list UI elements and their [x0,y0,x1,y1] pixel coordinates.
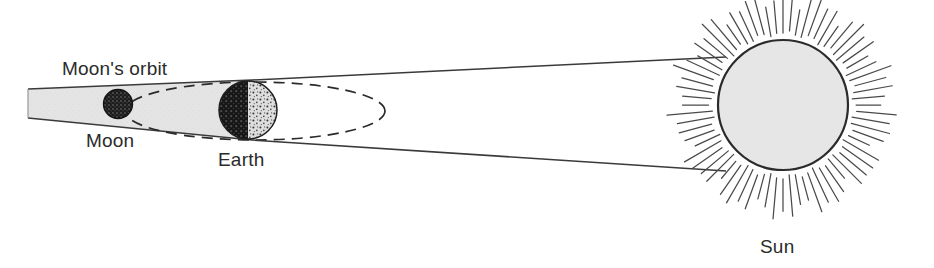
sun-ray [753,0,764,35]
label-sun: Sun [760,236,794,258]
sun-ray [843,42,873,63]
diagram-canvas [0,0,934,268]
sun-ray [843,147,873,168]
sun-ray [852,96,884,99]
sun-ray [836,37,864,60]
sun-ray [765,174,771,207]
sun-ray [831,22,853,48]
sun-ray [667,111,712,115]
sun-ray [849,136,870,146]
sun-ray [730,13,748,44]
sun-ray [819,168,838,201]
sun-ray [773,178,777,219]
sun-ray [826,166,844,192]
sun-ray [774,1,777,33]
sun-ray [758,174,765,198]
sun-ray [685,141,721,162]
sun-ray [677,117,714,123]
sun-ray [745,175,757,209]
sun-ray [687,60,719,75]
sun-ray [812,168,828,202]
sun-ray [855,77,886,85]
sun-ray [802,177,808,200]
sun-ray [795,175,800,205]
sun-ray [766,7,771,36]
sun-ray [828,159,844,178]
sun-ray [683,96,712,99]
sun-ray [789,175,793,216]
upper-tangent-ray [252,57,726,80]
sun-ray [808,173,822,212]
sun-ray [818,11,837,44]
sun-ray [745,2,757,36]
sun-ray [843,140,878,160]
sun-ray [682,78,713,86]
sun-ray [738,170,753,202]
sun-ray [852,117,889,124]
sun-ray [693,148,722,169]
label-moons-orbit: Moon's orbit [62,58,167,80]
sun-ray [704,39,727,59]
moon-body [104,90,133,119]
sun-ray [854,86,892,93]
sun-ray [789,0,792,31]
tangent-rays-group [252,57,726,171]
sun-ray [857,111,896,114]
sun-ray [801,0,812,37]
earth-body [219,81,277,139]
eclipse-diagram: Moon's orbit Moon Earth Sun [0,0,934,268]
sun-ray [679,124,711,133]
sun-ray [840,153,866,175]
sun-ray [677,86,715,93]
lower-tangent-ray [252,140,726,171]
label-moon: Moon [86,130,134,152]
sun-ray [795,10,799,35]
label-earth: Earth [218,149,264,171]
sun-ray [720,165,740,194]
sun-ray [850,66,891,81]
sun-disc [718,40,848,170]
sun-ray [695,43,722,62]
moon-disc [104,90,133,119]
sun-ray [674,65,714,79]
